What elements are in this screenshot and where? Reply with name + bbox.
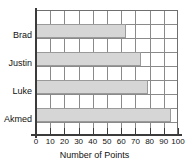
x-tick-label-80: 80 (145, 137, 154, 147)
plot-area (36, 10, 178, 134)
y-axis-category-labels: Brad Justin Luke Akmed (0, 10, 34, 134)
bar-brad (36, 24, 126, 38)
category-label-brad: Brad (0, 30, 32, 40)
gridline-horizontal-6 (36, 94, 177, 95)
gridline-horizontal-2 (36, 38, 177, 39)
category-label-justin: Justin (0, 58, 32, 68)
x-tick-10 (50, 128, 51, 135)
x-tick-40 (93, 128, 94, 135)
category-label-akmed: Akmed (0, 114, 32, 124)
gridline-horizontal-4 (36, 66, 177, 67)
x-tick-80 (150, 128, 151, 135)
x-tick-90 (164, 128, 165, 135)
x-tick-label-60: 60 (117, 137, 126, 147)
x-tick-100 (178, 128, 179, 135)
x-tick-label-90: 90 (159, 137, 168, 147)
x-tick-label-30: 30 (74, 137, 83, 147)
y-axis-line (35, 8, 37, 138)
x-tick-label-20: 20 (60, 137, 69, 147)
x-axis-title: Number of Points (0, 150, 189, 160)
x-tick-20 (64, 128, 65, 135)
gridline-horizontal-8 (36, 122, 177, 123)
x-tick-label-100: 100 (171, 137, 184, 147)
x-tick-70 (135, 128, 136, 135)
bar-luke (36, 80, 148, 94)
x-tick-label-40: 40 (88, 137, 97, 147)
x-tick-60 (121, 128, 122, 135)
x-tick-label-70: 70 (131, 137, 140, 147)
x-tick-label-50: 50 (103, 137, 112, 147)
x-tick-label-0: 0 (34, 137, 38, 147)
bar-chart: Brad Justin Luke Akmed 0 (0, 0, 189, 168)
x-tick-50 (107, 128, 108, 135)
bar-akmed (36, 108, 171, 122)
x-tick-label-10: 10 (46, 137, 55, 147)
x-tick-30 (79, 128, 80, 135)
x-tick-0 (36, 128, 37, 135)
bar-justin (36, 52, 141, 66)
category-label-luke: Luke (0, 86, 32, 96)
